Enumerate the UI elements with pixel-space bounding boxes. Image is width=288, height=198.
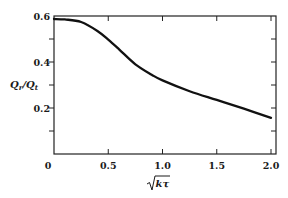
plot-frame — [54, 16, 276, 154]
plot-border — [54, 16, 276, 154]
x-axis-label-radicand: kτ — [156, 178, 170, 189]
x-tick-label: 0.5 — [100, 160, 117, 171]
y-tick-label: 0.4 — [33, 57, 50, 68]
tick-labels: 00.51.01.52.00.20.40.6 — [33, 11, 279, 172]
x-tick-label: 1.5 — [208, 160, 225, 171]
x-tick-label: 0 — [45, 160, 52, 171]
x-tick-label: 1.0 — [154, 160, 171, 171]
x-axis-label: kτ — [147, 176, 170, 190]
chart: 00.51.01.52.00.20.40.6 Qr/Qt kτ — [0, 0, 288, 198]
data-curve — [54, 19, 271, 118]
axis-ticks — [49, 16, 276, 154]
x-tick-label: 2.0 — [263, 160, 280, 171]
y-tick-label: 0.6 — [33, 11, 50, 22]
y-axis-label: Qr/Qt — [10, 79, 39, 92]
y-tick-label: 0.2 — [33, 103, 50, 114]
